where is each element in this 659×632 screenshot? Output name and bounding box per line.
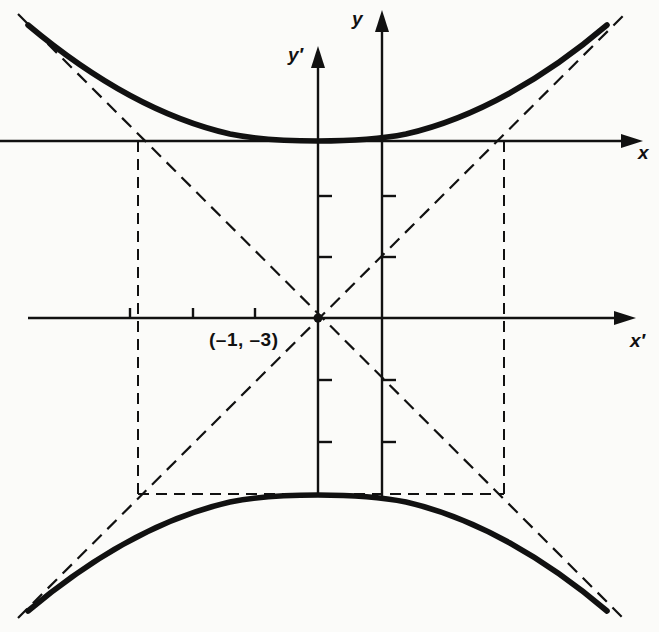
hyperbola-plot-canvas [0, 0, 659, 632]
x-prime-axis [28, 308, 636, 325]
center-point-marker [314, 314, 323, 323]
x-prime-axis-arrowhead [614, 311, 636, 325]
center-point-label: (–1, –3) [209, 329, 278, 351]
x-axis-label: x [638, 142, 649, 164]
hyperbola-lower-branch [28, 495, 607, 611]
y-axis-label: y [352, 8, 363, 30]
x-prime-axis-label: x′ [630, 330, 645, 352]
y-prime-axis-label: y′ [288, 44, 303, 66]
y-axis [375, 10, 396, 496]
hyperbola-figure: y′ y x x′ (–1, –3) [0, 0, 659, 632]
y-prime-axis [311, 46, 332, 496]
y-prime-axis-arrowhead [311, 46, 325, 68]
y-axis-arrowhead [375, 10, 389, 32]
